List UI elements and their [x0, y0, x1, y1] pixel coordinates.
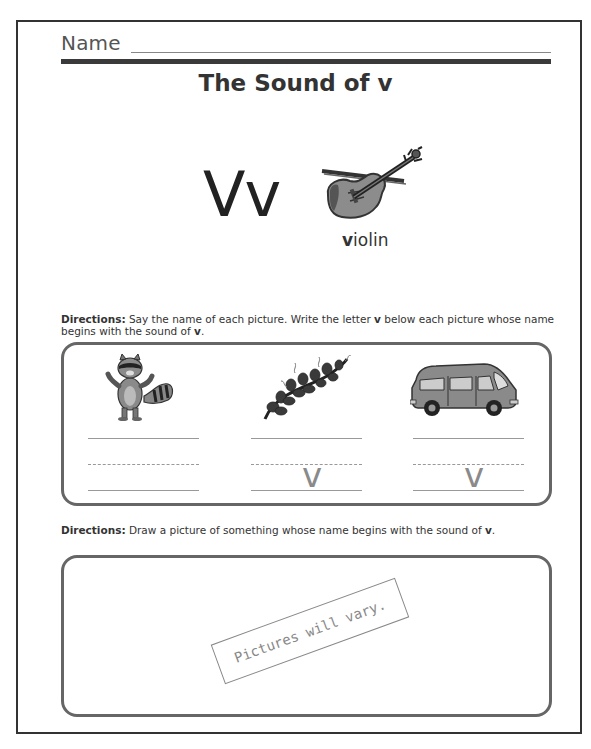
- name-input-line[interactable]: [131, 52, 551, 53]
- directions-1-bold-b: v: [194, 325, 201, 337]
- page-title: The Sound of v: [0, 70, 591, 96]
- writing-line-top-1: [88, 438, 199, 439]
- header-divider: [61, 59, 551, 64]
- directions-1: Directions: Say the name of each picture…: [61, 313, 561, 337]
- name-label: Name: [61, 31, 121, 55]
- directions-1-bold-a: v: [374, 313, 381, 325]
- writing-line-mid-1: [88, 464, 199, 465]
- directions-1-text-c: .: [201, 325, 204, 337]
- directions-2-text-a: Draw a picture of something whose name b…: [126, 524, 485, 536]
- violin-label: violin: [342, 230, 388, 250]
- letter-display: Vv: [203, 164, 280, 226]
- raccoon-icon: [104, 352, 176, 422]
- directions-2-text-b: .: [492, 524, 495, 536]
- vine-icon: [259, 355, 355, 423]
- directions-2-label: Directions:: [61, 524, 126, 536]
- violin-label-rest: iolin: [353, 230, 388, 250]
- writing-line-base-1: [88, 490, 199, 491]
- directions-1-text-a: Say the name of each picture. Write the …: [126, 313, 375, 325]
- directions-2-bold-a: v: [485, 524, 492, 536]
- violin-icon: [318, 145, 426, 225]
- van-icon: [410, 360, 520, 418]
- answer-letter-3: v: [464, 460, 484, 490]
- violin-label-first-letter: v: [342, 230, 353, 250]
- directions-1-label: Directions:: [61, 313, 126, 325]
- writing-line-mid-2: [251, 464, 362, 465]
- writing-line-base-2: [251, 490, 362, 491]
- writing-line-top-3: [413, 438, 524, 439]
- directions-2: Directions: Draw a picture of something …: [61, 524, 561, 536]
- writing-line-top-2: [251, 438, 362, 439]
